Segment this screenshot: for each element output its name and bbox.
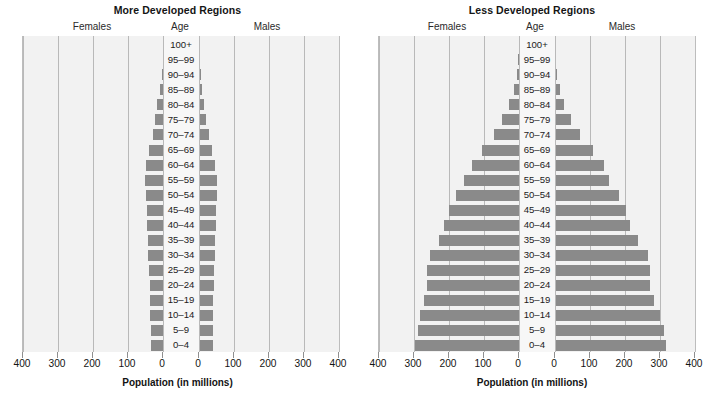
pyramid-row: 80–84 <box>23 96 339 111</box>
age-group-label: 100+ <box>513 38 561 52</box>
col-header-males: Males <box>577 21 667 32</box>
age-group-label: 55–59 <box>513 173 561 187</box>
age-group-label: 35–39 <box>513 233 561 247</box>
age-group-label: 25–29 <box>513 263 561 277</box>
plot-area: 100+95–9990–9485–8980–8475–7970–7465–696… <box>22 36 340 352</box>
age-group-label: 10–14 <box>513 308 561 322</box>
bar-female <box>472 160 519 171</box>
x-tick-label: 200 <box>248 358 288 369</box>
chart-title: Less Developed Regions <box>355 4 709 16</box>
bar-male <box>556 310 660 321</box>
age-group-label: 40–44 <box>513 218 561 232</box>
col-header-females: Females <box>402 21 492 32</box>
pyramid-row: 90–94 <box>379 66 695 81</box>
age-group-label: 0–4 <box>157 338 205 352</box>
pyramid-row: 85–89 <box>379 81 695 96</box>
chart-title: More Developed Regions <box>0 4 355 16</box>
x-tick-label: 400 <box>2 358 42 369</box>
bar-female <box>444 220 519 231</box>
age-group-label: 0–4 <box>513 338 561 352</box>
x-tick-label: 0 <box>142 358 182 369</box>
bar-male <box>556 190 619 201</box>
age-group-label: 25–29 <box>157 263 205 277</box>
pyramid-row: 70–74 <box>379 126 695 141</box>
age-group-label: 20–24 <box>157 278 205 292</box>
pyramid-row: 5–9 <box>23 322 339 337</box>
pyramid-row: 10–14 <box>379 307 695 322</box>
x-tick-label: 100 <box>569 358 609 369</box>
age-group-label: 75–79 <box>157 113 205 127</box>
pyramid-row: 0–4 <box>23 337 339 352</box>
chart-panel-less-developed: Less Developed RegionsFemalesAgeMales100… <box>355 0 709 399</box>
age-group-label: 15–19 <box>157 293 205 307</box>
age-group-label: 70–74 <box>157 128 205 142</box>
age-group-label: 80–84 <box>157 98 205 112</box>
bar-female <box>427 265 519 276</box>
pyramid-row: 60–64 <box>379 156 695 171</box>
bar-female <box>420 310 519 321</box>
bar-male <box>556 265 650 276</box>
age-group-label: 35–39 <box>157 233 205 247</box>
col-header-males: Males <box>222 21 312 32</box>
pyramid-row: 40–44 <box>379 217 695 232</box>
x-tick-label: 400 <box>358 358 398 369</box>
age-group-label: 55–59 <box>157 173 205 187</box>
pyramid-row: 25–29 <box>23 262 339 277</box>
pyramid-row: 15–19 <box>379 292 695 307</box>
pyramid-row: 85–89 <box>23 81 339 96</box>
age-group-label: 100+ <box>157 38 205 52</box>
age-group-label: 15–19 <box>513 293 561 307</box>
pyramid-row: 25–29 <box>379 262 695 277</box>
pyramid-row: 75–79 <box>23 111 339 126</box>
bar-female <box>449 205 519 216</box>
x-tick-label: 200 <box>604 358 644 369</box>
age-group-label: 80–84 <box>513 98 561 112</box>
age-group-label: 20–24 <box>513 278 561 292</box>
pyramid-row: 100+ <box>379 36 695 51</box>
x-tick-label: 0 <box>178 358 218 369</box>
pyramid-row: 30–34 <box>23 247 339 262</box>
x-tick-label: 400 <box>674 358 709 369</box>
bar-male <box>556 340 666 351</box>
age-group-label: 95–99 <box>157 53 205 67</box>
pyramid-row: 90–94 <box>23 66 339 81</box>
bar-female <box>418 325 520 336</box>
pyramid-row: 100+ <box>23 36 339 51</box>
bar-male <box>556 145 593 156</box>
x-tick-label: 0 <box>534 358 574 369</box>
bar-male <box>556 250 648 261</box>
x-tick-label: 0 <box>498 358 538 369</box>
age-group-label: 95–99 <box>513 53 561 67</box>
age-group-label: 5–9 <box>513 323 561 337</box>
x-tick-label: 100 <box>463 358 503 369</box>
bar-male <box>556 235 638 246</box>
age-group-label: 90–94 <box>513 68 561 82</box>
age-group-label: 65–69 <box>513 143 561 157</box>
bar-rows: 100+95–9990–9485–8980–8475–7970–7465–696… <box>23 36 339 352</box>
pyramid-row: 55–59 <box>23 171 339 186</box>
age-group-label: 65–69 <box>157 143 205 157</box>
plot-area: 100+95–9990–9485–8980–8475–7970–7465–696… <box>378 36 696 352</box>
bar-male <box>556 220 630 231</box>
population-pyramid-figure: More Developed RegionsFemalesAgeMales100… <box>0 0 709 399</box>
pyramid-row: 80–84 <box>379 96 695 111</box>
col-header-age: Age <box>490 21 580 32</box>
age-group-label: 45–49 <box>157 203 205 217</box>
x-axis: 40030020010000100200300400 <box>378 352 694 372</box>
bar-male <box>556 160 604 171</box>
pyramid-row: 30–34 <box>379 247 695 262</box>
bar-rows: 100+95–9990–9485–8980–8475–7970–7465–696… <box>379 36 695 352</box>
bar-female <box>427 280 519 291</box>
bar-male <box>556 280 650 291</box>
age-group-label: 10–14 <box>157 308 205 322</box>
x-tick-label: 200 <box>428 358 468 369</box>
x-tick-label: 400 <box>318 358 358 369</box>
pyramid-row: 45–49 <box>23 202 339 217</box>
age-group-label: 85–89 <box>513 83 561 97</box>
age-group-label: 50–54 <box>513 188 561 202</box>
pyramid-row: 5–9 <box>379 322 695 337</box>
pyramid-row: 55–59 <box>379 171 695 186</box>
pyramid-row: 35–39 <box>379 232 695 247</box>
x-tick-label: 300 <box>393 358 433 369</box>
col-header-females: Females <box>47 21 137 32</box>
